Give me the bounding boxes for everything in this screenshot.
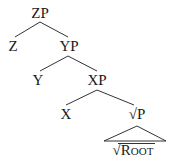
edge-zp-z <box>15 22 40 37</box>
node-y: Y <box>33 73 44 88</box>
root-initial: R <box>121 142 131 158</box>
radical-symbol: √ <box>113 142 121 158</box>
leaf-root: √ROOT <box>113 143 154 158</box>
edge-yp-xp <box>68 56 97 71</box>
node-z: Z <box>8 39 17 54</box>
node-zp: ZP <box>31 6 49 21</box>
node-root-p: √P <box>129 107 146 122</box>
node-yp: YP <box>59 39 78 54</box>
node-xp: XP <box>87 73 106 88</box>
triangle-constituent <box>104 126 166 141</box>
node-x: X <box>61 107 72 122</box>
root-smallcaps: OOT <box>131 145 154 157</box>
edge-yp-y <box>40 56 68 71</box>
edge-xp-x <box>66 90 97 105</box>
edge-xp-rootp <box>97 90 134 105</box>
edge-zp-yp <box>40 22 68 37</box>
